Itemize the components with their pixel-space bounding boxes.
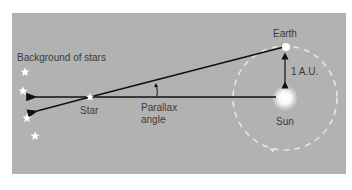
background-star-icon <box>23 114 32 123</box>
sun-label: Sun <box>276 116 294 127</box>
star-label: Star <box>80 105 98 116</box>
sun-icon <box>272 85 298 111</box>
parallax-label-line2: angle <box>141 114 165 125</box>
background-stars-label: Background of stars <box>17 52 106 63</box>
parallax-diagram <box>0 0 352 190</box>
distance-label: 1 A.U. <box>291 66 318 77</box>
parallax-label-line1: Parallax <box>141 102 177 113</box>
earth-icon <box>282 43 290 51</box>
background-star-icon <box>31 132 40 141</box>
star-earth-line <box>90 47 284 97</box>
background-star-icon <box>21 68 30 77</box>
near-star-icon <box>86 93 94 101</box>
parallax-angle-arrowhead <box>154 83 158 87</box>
background-star-icon <box>19 87 28 96</box>
earth-label: Earth <box>273 28 297 39</box>
